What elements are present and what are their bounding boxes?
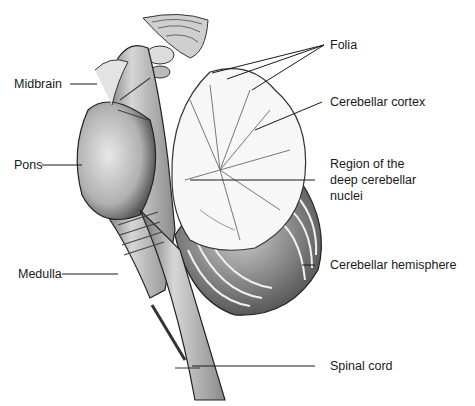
label-midbrain: Midbrain — [14, 77, 62, 92]
label-deep-nuclei-line1: Region of the — [330, 157, 404, 172]
label-cerebellar-cortex: Cerebellar cortex — [330, 95, 425, 110]
label-deep-nuclei-line2: deep cerebellar — [330, 173, 416, 188]
brain-illustration — [0, 0, 475, 406]
cerebellar-cortex — [172, 69, 306, 251]
label-deep-nuclei-line3: nuclei — [330, 189, 363, 204]
label-cerebellar-hemisphere: Cerebellar hemisphere — [330, 258, 456, 273]
label-pons: Pons — [14, 158, 43, 173]
label-spinal-cord: Spinal cord — [330, 359, 393, 374]
label-medulla: Medulla — [18, 267, 62, 282]
anatomy-figure: Midbrain Pons Medulla Folia Cerebellar c… — [0, 0, 475, 406]
label-folia: Folia — [330, 38, 357, 53]
